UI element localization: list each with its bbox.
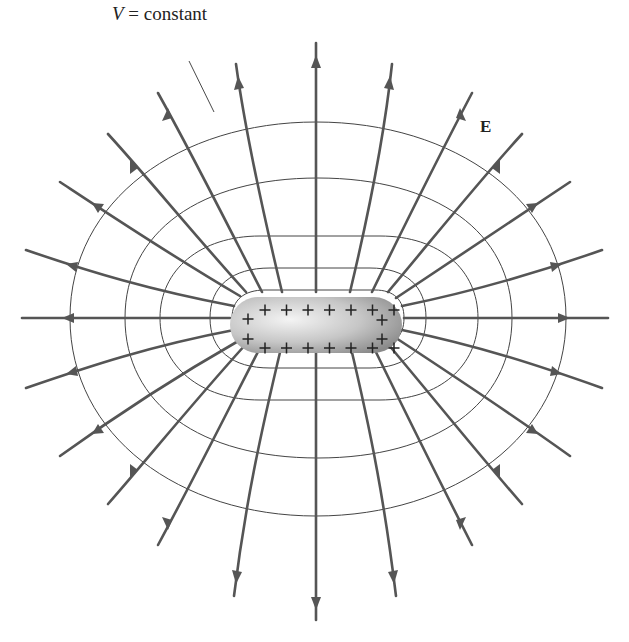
charged-conductor (230, 297, 402, 354)
arrow-icon (492, 464, 500, 478)
arrow-icon (232, 570, 242, 584)
conductor-body (230, 297, 402, 353)
arrow-icon (384, 76, 394, 90)
field-line (350, 64, 392, 292)
field-line (372, 93, 472, 292)
arrow-icon (130, 464, 138, 478)
field-line (108, 344, 246, 504)
field-line (26, 330, 234, 388)
arrow-icon (92, 203, 104, 213)
equipotential-label-text: = constant (124, 3, 208, 24)
label-leader-line (189, 61, 214, 112)
field-line (234, 344, 282, 596)
field-line (236, 64, 282, 292)
field-line (402, 330, 602, 388)
field-line (396, 182, 570, 298)
arrow-icon (558, 313, 570, 323)
arrow-icon (311, 55, 321, 68)
arrow-icon (234, 76, 244, 90)
field-line (108, 134, 246, 292)
arrow-icon (62, 313, 74, 323)
field-line (396, 338, 570, 456)
field-line (26, 250, 234, 306)
field-label: E (480, 117, 491, 137)
field-line (372, 344, 472, 545)
voltage-symbol: V (112, 3, 124, 24)
field-diagram (0, 0, 629, 642)
equipotential-label: V = constant (112, 3, 207, 25)
arrow-icon (311, 597, 321, 610)
arrow-icon (388, 570, 398, 584)
field-line (402, 250, 602, 306)
